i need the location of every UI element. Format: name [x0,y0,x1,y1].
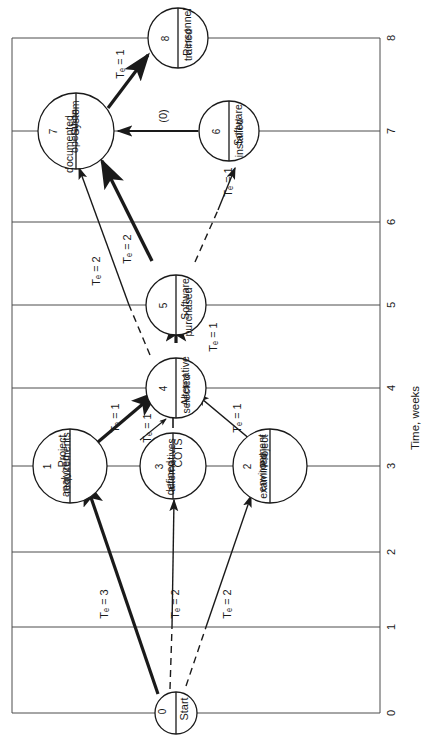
axis-tick-3: 3 [385,463,397,469]
node-2-label-line-2: examined [257,453,269,499]
axis-tick-4: 4 [385,385,397,391]
edge-0-3-dashed [170,627,172,689]
node-4-label-line-1: selected [180,374,192,413]
node-0-number: 0 [157,709,168,715]
axis-tick-0: 0 [385,710,397,716]
node-6-number: 6 [211,129,222,135]
node-1-label-line-2: analyzed [59,455,71,497]
edge-label-0-2: Tₑ = 2 [221,589,233,618]
node-2-number: 2 [242,464,253,470]
node-8-label-line-1: trained [182,29,194,61]
axis-title: Time, weeks [409,386,421,450]
axis-tick-6: 6 [385,219,397,225]
axis-tick-2: 2 [385,549,397,555]
node-3-label-line-2: defined [164,461,176,495]
axis-tick-8: 8 [385,35,397,41]
edge-label-6-7-dummy: (0) [157,109,169,122]
edge-label-0-3: Tₑ = 2 [169,589,181,618]
pert-network-svg [0,0,424,751]
edge-label-5-6: Tₑ = 1 [222,167,234,196]
node-4-number: 4 [158,386,169,392]
node-1-number: 1 [42,464,53,470]
edge-label-4-7: Tₑ = 2 [90,256,102,285]
edge-label-2-4: Tₑ = 1 [231,403,243,432]
node-5-label-line-1: purchased [182,287,194,336]
edge-label-3-4: Tₑ = 1 [141,413,153,442]
node-6-label-line-1: installed [233,119,245,158]
node-5-number: 5 [158,303,169,309]
node-8-number: 8 [160,36,171,42]
edge-label-4-5: Tₑ = 1 [207,322,219,351]
axis-tick-5: 5 [385,302,397,308]
axis-tick-1: 1 [385,624,397,630]
node-7-label-line-2: documented [63,115,75,173]
edge-5-6-dashed [195,210,218,262]
node-7-number: 7 [48,129,59,135]
axis-tick-7: 7 [385,128,397,134]
edge-label-5-7: Tₑ = 2 [121,234,133,263]
node-0-label-line-0: Start [178,697,190,720]
edge-label-7-8: Tₑ = 1 [114,49,126,78]
edge-0-2-dashed [186,627,206,686]
edge-label-0-1: Tₑ = 3 [98,589,110,618]
pert-diagram-figure: 0 Start 1 Project requirements analyzed … [0,0,424,751]
edge-0-1 [85,480,158,694]
edge-label-1-4: Tₑ = 1 [109,403,121,432]
edge-2-4 [196,394,251,440]
